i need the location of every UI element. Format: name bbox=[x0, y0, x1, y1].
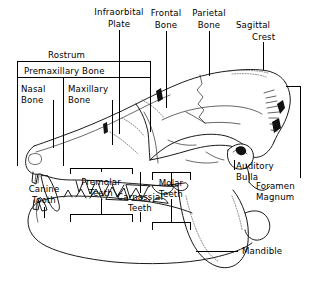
maxilla-texture bbox=[110, 132, 138, 154]
orbit-rim bbox=[136, 104, 150, 160]
orbit-front-texture bbox=[122, 118, 144, 136]
annotation-labels: Rostrum Premaxillary Bone Nasal Bone Max… bbox=[21, 7, 295, 256]
premolar-lower-bracket bbox=[70, 214, 132, 222]
label-premaxillary-bone: Premaxillary Bone bbox=[24, 66, 105, 76]
jugal-detail bbox=[168, 140, 196, 145]
premaxilla-front bbox=[26, 146, 40, 174]
label-rostrum: Rostrum bbox=[48, 50, 85, 60]
label-maxillary-bone-1: Maxillary bbox=[68, 84, 108, 94]
frontal-suture-branch bbox=[205, 122, 240, 124]
label-auditory-1: Auditory bbox=[236, 161, 274, 171]
label-premolar-1: Premolar bbox=[81, 177, 121, 187]
label-premolar-2: Teeth bbox=[88, 188, 113, 198]
label-carnassial-1: Carnassial bbox=[117, 192, 163, 202]
label-parietal-1: Parietal bbox=[192, 8, 226, 18]
label-nasal-bone-2: Bone bbox=[21, 95, 44, 105]
pterygoid-detail bbox=[206, 152, 224, 160]
nasal-opening bbox=[29, 154, 42, 165]
orbit-inner bbox=[144, 112, 158, 163]
label-infraorbital-2: Plate bbox=[108, 19, 130, 29]
label-frontal-2: Bone bbox=[155, 20, 178, 30]
label-infraorbital-1: Infraorbital bbox=[94, 7, 143, 17]
label-molar-1: Molar bbox=[159, 178, 184, 188]
sagittal-crest-shading-2 bbox=[232, 74, 266, 77]
label-canine-2: Tooth bbox=[31, 195, 56, 205]
label-parietal-2: Bone bbox=[198, 20, 221, 30]
label-foramen-2: Magnum bbox=[256, 192, 294, 202]
label-nasal-bone-1: Nasal bbox=[21, 84, 46, 94]
label-mandible: Mandible bbox=[242, 246, 282, 256]
maxillary-foramen bbox=[156, 88, 163, 102]
label-canine-1: Canine bbox=[29, 184, 60, 194]
label-molar-2: Teeth bbox=[158, 189, 183, 199]
annotation-rules bbox=[17, 30, 300, 251]
label-maxillary-bone-2: Bone bbox=[68, 95, 91, 105]
temporal-line bbox=[162, 106, 262, 120]
lower-premolar-2 bbox=[76, 189, 86, 198]
label-foramen-1: Foramen bbox=[256, 181, 295, 191]
label-sagittal-2: Crest bbox=[252, 32, 276, 42]
palatine-detail bbox=[186, 160, 218, 163]
skull-dorsal-profile bbox=[34, 70, 285, 147]
label-auditory-2: Bulla bbox=[236, 172, 258, 182]
infraorbital-foramen bbox=[103, 122, 108, 134]
label-sagittal-1: Sagittal bbox=[236, 20, 270, 30]
sagittal-crest-shading bbox=[228, 70, 268, 73]
label-frontal-1: Frontal bbox=[151, 8, 181, 18]
coronoid-process bbox=[178, 186, 248, 268]
squamosal-suture bbox=[186, 112, 205, 123]
skull-anatomy-figure: Rostrum Premaxillary Bone Nasal Bone Max… bbox=[0, 0, 312, 282]
label-carnassial-2: Teeth bbox=[127, 203, 152, 213]
frontal-parietal-suture bbox=[197, 75, 205, 123]
foramen-magnum-leader bbox=[286, 86, 300, 178]
